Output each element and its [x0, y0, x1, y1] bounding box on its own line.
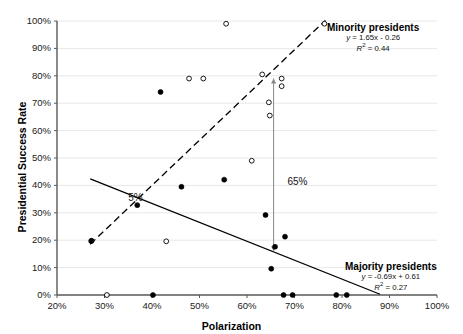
minority-equation: y = 1.65x - 0.26	[327, 33, 419, 42]
data-point	[224, 21, 229, 26]
data-point	[279, 76, 284, 81]
data-point	[267, 113, 272, 118]
trendline-dashed	[90, 20, 325, 244]
y-tick-label: 100%	[17, 15, 51, 26]
y-tick-label: 70%	[17, 97, 51, 108]
data-point	[269, 266, 274, 271]
data-point	[260, 72, 265, 77]
scatter-chart: Presidential Success Rate Polarization 0…	[0, 0, 463, 334]
majority-annotation-title: Majority presidents	[345, 261, 437, 272]
data-point	[283, 234, 288, 239]
x-axis-title: Polarization	[0, 320, 463, 332]
majority-r-squared: R2 = 0.27	[345, 281, 437, 292]
gridlines	[57, 21, 437, 268]
y-axis-title: Presidential Success Rate	[16, 87, 28, 247]
trendlines	[90, 20, 380, 294]
x-tick-label: 70%	[275, 300, 315, 311]
minority-r-squared: R2 = 0.44	[327, 42, 419, 53]
y-tick-label: 0%	[17, 289, 51, 300]
minority-trendline-annotation: Minority presidents y = 1.65x - 0.26 R2 …	[327, 22, 419, 53]
x-tick-label: 100%	[417, 300, 457, 311]
data-point	[150, 293, 155, 298]
y-tick-label: 10%	[17, 262, 51, 273]
y-tick-label: 30%	[17, 207, 51, 218]
data-point	[266, 100, 271, 105]
minority-annotation-title: Minority presidents	[327, 22, 419, 33]
y-tick-label: 90%	[17, 42, 51, 53]
data-points	[89, 21, 350, 297]
data-point	[201, 76, 206, 81]
data-point	[249, 158, 254, 163]
data-point	[279, 84, 284, 89]
x-tick-label: 80%	[322, 300, 362, 311]
data-point	[158, 89, 163, 94]
majority-equation: y = -0.69x + 0.61	[345, 272, 437, 281]
y-tick-label: 40%	[17, 179, 51, 190]
data-point	[273, 244, 278, 249]
x-tick-label: 30%	[85, 300, 125, 311]
data-point	[281, 293, 286, 298]
x-tick-label: 60%	[227, 300, 267, 311]
gap-arrow-head	[271, 79, 276, 84]
y-tick-label: 60%	[17, 125, 51, 136]
y-tick-label: 20%	[17, 234, 51, 245]
gap-65-percent: 65%	[287, 176, 307, 187]
data-point	[222, 177, 227, 182]
data-point	[135, 203, 140, 208]
data-point	[290, 293, 295, 298]
data-point	[104, 293, 109, 298]
gap-5-percent: 5%	[128, 192, 142, 203]
majority-trendline-annotation: Majority presidents y = -0.69x + 0.61 R2…	[345, 261, 437, 292]
data-point	[263, 212, 268, 217]
y-tick-label: 80%	[17, 70, 51, 81]
data-point	[179, 184, 184, 189]
data-point	[344, 293, 349, 298]
y-tick-label: 50%	[17, 152, 51, 163]
x-tick-label: 50%	[180, 300, 220, 311]
data-point	[334, 293, 339, 298]
vertical-gap-arrow	[271, 79, 276, 252]
axes	[54, 21, 437, 298]
x-tick-label: 40%	[132, 300, 172, 311]
data-point	[187, 76, 192, 81]
data-point	[89, 239, 94, 244]
x-tick-label: 90%	[370, 300, 410, 311]
data-point	[164, 239, 169, 244]
x-tick-label: 20%	[37, 300, 77, 311]
